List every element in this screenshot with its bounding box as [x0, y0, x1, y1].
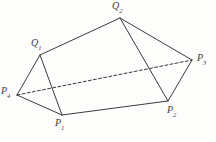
- edge-Q1-P1: [40, 55, 62, 115]
- vertex-label-Q2: Q2: [112, 1, 122, 11]
- vertex-label-subscript: 2: [119, 7, 122, 14]
- edge-P4-Q1: [17, 55, 40, 95]
- edge-P1-P2: [62, 101, 168, 115]
- edge-Q2-P3: [120, 18, 192, 60]
- vertex-label-subscript: 3: [203, 59, 206, 66]
- vertex-label-Q1: Q1: [31, 38, 41, 48]
- geometry-figure: Q2Q1P3P4P2P1: [0, 0, 216, 142]
- edge-P2-P3: [168, 60, 192, 101]
- vertex-label-subscript: 1: [61, 124, 64, 131]
- solid-edge-group: [17, 18, 192, 115]
- vertex-label-P4: P4: [1, 86, 10, 96]
- vertex-label-P3: P3: [197, 53, 206, 63]
- vertex-label-P1: P1: [55, 118, 64, 128]
- edge-Q1-Q2: [40, 18, 120, 55]
- vertex-label-subscript: 4: [7, 92, 10, 99]
- vertex-label-subscript: 2: [173, 111, 176, 118]
- vertex-label-subscript: 1: [38, 44, 41, 51]
- edge-Q2-P2: [120, 18, 168, 101]
- figure-canvas: [0, 0, 216, 142]
- vertex-label-P2: P2: [167, 105, 176, 115]
